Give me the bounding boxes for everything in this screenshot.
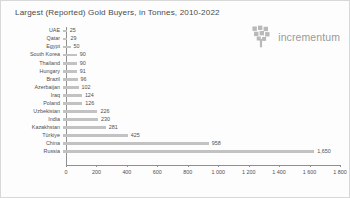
x-tick-label: 1 200 [242,169,256,175]
bar-value-label: 29 [67,36,76,41]
bar-track: 90 [63,51,343,59]
bar-fill [63,62,77,65]
bar-category-label: Egypt [1,44,63,49]
bar-category-label: China [1,141,63,146]
x-tick-label: 1 800 [333,169,347,175]
bar-track: 281 [63,124,343,132]
bar-row: Hungary91 [1,67,350,75]
bar-row: Türkiye425 [1,132,350,140]
bar-value-label: 96 [78,77,87,82]
bar-row: Russia1,650 [1,148,350,156]
bar-row: India230 [1,116,350,124]
bar-track: 29 [63,35,343,43]
bar-fill [63,102,82,105]
bar-value-label: 1,650 [314,149,331,154]
bar-fill [63,150,314,153]
bar-row: UAE25 [1,27,350,35]
bar-track: 96 [63,75,343,83]
bar-fill [63,86,79,89]
bar-track: 226 [63,107,343,115]
bar-row: Qatar29 [1,35,350,43]
bar-value-label: 958 [209,141,221,146]
bar-row: Iraq124 [1,91,350,99]
bar-row: South Korea90 [1,51,350,59]
x-tick-label: 1 400 [272,169,286,175]
bar-row: Egypt50 [1,43,350,51]
bar-value-label: 102 [79,85,91,90]
bar-category-label: Qatar [1,36,63,41]
bar-track: 230 [63,116,343,124]
x-tick-mark [96,165,97,168]
gold-buyers-bar-chart: Largest (Reported) Gold Buyers, in Tonne… [0,0,350,198]
bar-category-label: Iraq [1,93,63,98]
bar-fill [63,110,97,113]
x-tick-mark [249,165,250,168]
x-tick-label: 1 600 [303,169,317,175]
bar-row: Poland126 [1,99,350,107]
bar-value-label: 90 [77,61,86,66]
bar-fill [63,142,209,145]
x-tick-label: 800 [183,169,192,175]
bar-value-label: 90 [77,52,86,57]
x-tick-mark [340,165,341,168]
bar-category-label: Thailand [1,61,63,66]
x-tick-mark [279,165,280,168]
x-tick-mark [157,165,158,168]
bar-category-label: Hungary [1,69,63,74]
bar-track: 50 [63,43,343,51]
x-tick-label: 1 000 [211,169,225,175]
bar-row: Azerbaijan102 [1,83,350,91]
bar-category-label: Azerbaijan [1,85,63,90]
bar-category-label: Russia [1,149,63,154]
chart-title: Largest (Reported) Gold Buyers, in Tonne… [15,8,220,17]
bar-track: 25 [63,27,343,35]
bar-fill [63,46,71,49]
bar-category-label: Brazil [1,77,63,82]
x-axis-line [66,165,340,166]
bar-fill [63,134,128,137]
bar-category-label: Poland [1,101,63,106]
bar-category-label: UAE [1,28,63,33]
bar-fill [63,118,98,121]
x-tick-mark [127,165,128,168]
bar-category-label: Kazakhstan [1,125,63,130]
bar-track: 90 [63,59,343,67]
bar-row: Brazil96 [1,75,350,83]
bar-track: 1,650 [63,148,343,156]
bar-fill [63,54,77,57]
x-tick-mark [218,165,219,168]
bar-value-label: 50 [71,44,80,49]
bar-value-label: 281 [106,125,118,130]
bar-track: 124 [63,91,343,99]
x-tick-label: 0 [65,169,68,175]
bar-value-label: 126 [82,101,94,106]
x-tick-mark [66,165,67,168]
bar-category-label: Türkiye [1,133,63,138]
bar-row: China958 [1,140,350,148]
x-tick-mark [188,165,189,168]
bar-category-label: India [1,117,63,122]
bar-track: 91 [63,67,343,75]
bar-fill [63,94,82,97]
bar-category-label: South Korea [1,52,63,57]
x-tick-mark [310,165,311,168]
bar-row: Uzbekistan226 [1,107,350,115]
bar-row: Thailand90 [1,59,350,67]
bar-track: 102 [63,83,343,91]
bar-value-label: 124 [82,93,94,98]
bar-fill [63,126,106,129]
x-tick-label: 400 [122,169,131,175]
plot-area: UAE25Qatar29Egypt50South Korea90Thailand… [1,27,350,177]
bar-value-label: 91 [77,69,86,74]
bar-track: 958 [63,140,343,148]
x-tick-label: 200 [92,169,101,175]
bar-value-label: 25 [67,28,76,33]
bar-category-label: Uzbekistan [1,109,63,114]
bar-row: Kazakhstan281 [1,124,350,132]
bar-value-label: 226 [97,109,109,114]
bar-track: 425 [63,132,343,140]
bar-fill [63,70,77,73]
bar-fill [63,78,78,81]
bar-value-label: 230 [98,117,110,122]
bar-rows: UAE25Qatar29Egypt50South Korea90Thailand… [1,27,350,156]
